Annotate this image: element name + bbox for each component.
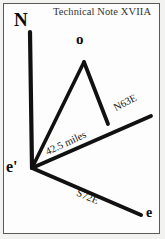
- o-to-crossing-line: [84, 62, 108, 124]
- station-e-prime-label: e': [6, 159, 18, 175]
- figure-container: Technical Note XVIIA N o e' e N63E 42.5 …: [0, 0, 165, 239]
- bearing-n63e-line: [32, 116, 151, 168]
- station-o-label: o: [76, 32, 84, 47]
- figure-title: Technical Note XVIIA: [53, 7, 151, 18]
- north-reference-line: [30, 32, 32, 168]
- north-label: N: [14, 10, 28, 29]
- station-e-label: e: [146, 206, 152, 220]
